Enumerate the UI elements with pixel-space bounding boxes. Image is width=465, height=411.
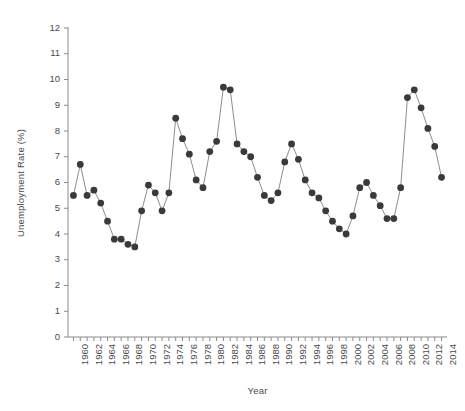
data-point-marker (138, 207, 145, 214)
x-axis-tick-label: 1982 (229, 344, 240, 378)
y-axis-tick-label: 4 (38, 228, 60, 239)
x-axis-tick-label: 1972 (161, 344, 172, 378)
x-axis-tick-label: 1964 (106, 344, 117, 378)
data-point-marker (350, 213, 357, 220)
x-axis-tick-label: 1966 (120, 344, 131, 378)
x-axis-tick-label: 2004 (379, 344, 390, 378)
data-point-marker (193, 177, 200, 184)
data-point-marker (329, 218, 336, 225)
data-point-marker (186, 151, 193, 158)
unemployment-rate-line-chart: Unemployment Rate (%) Year 0123456789101… (0, 0, 465, 411)
y-axis-title: Unemployment Rate (%) (15, 128, 26, 236)
x-axis-tick-label: 1970 (147, 344, 158, 378)
data-point-marker (411, 86, 418, 93)
x-axis-tick-label: 2006 (393, 344, 404, 378)
data-point-marker (336, 225, 343, 232)
data-point-marker (431, 143, 438, 150)
x-axis-title: Year (248, 385, 268, 396)
data-point-marker (384, 215, 391, 222)
x-axis-tick-label: 2000 (352, 344, 363, 378)
y-axis-tick-label: 10 (38, 73, 60, 84)
data-point-marker (234, 140, 241, 147)
data-point-marker (131, 243, 138, 250)
x-axis-tick-label: 2014 (447, 344, 458, 378)
data-point-marker (77, 161, 84, 168)
x-axis-tick-label: 1978 (202, 344, 213, 378)
data-point-marker (288, 140, 295, 147)
x-axis-tick-label: 2008 (406, 344, 417, 378)
data-point-marker (397, 184, 404, 191)
data-point-marker (390, 215, 397, 222)
x-axis-tick-label: 1988 (270, 344, 281, 378)
data-point-marker (159, 207, 166, 214)
y-axis-tick-label: 9 (38, 99, 60, 110)
x-axis-tick-label: 1974 (174, 344, 185, 378)
x-axis-tick-label: 1990 (283, 344, 294, 378)
data-point-marker (247, 153, 254, 160)
data-point-marker (343, 231, 350, 238)
y-axis-tick-label: 12 (38, 22, 60, 33)
data-point-marker (438, 174, 445, 181)
data-point-marker (104, 218, 111, 225)
data-point-marker (91, 187, 98, 194)
data-point-marker (213, 138, 220, 145)
data-point-marker (268, 197, 275, 204)
data-point-marker (172, 115, 179, 122)
y-axis-tick-label: 3 (38, 253, 60, 264)
x-axis-tick-label: 1994 (311, 344, 322, 378)
x-axis-tick-label: 1968 (133, 344, 144, 378)
data-point-marker (240, 148, 247, 155)
data-point-marker (309, 189, 316, 196)
data-point-marker (404, 94, 411, 101)
data-point-marker (254, 174, 261, 181)
data-point-marker (179, 135, 186, 142)
data-point-marker (275, 189, 282, 196)
x-axis-tick-label: 1960 (79, 344, 90, 378)
data-point-marker (111, 236, 118, 243)
data-point-marker (227, 86, 234, 93)
data-point-marker (356, 184, 363, 191)
x-axis-tick-label: 1984 (243, 344, 254, 378)
data-point-marker (315, 195, 322, 202)
data-point-marker (145, 182, 152, 189)
x-axis-tick-label: 2010 (420, 344, 431, 378)
y-axis-tick-label: 6 (38, 176, 60, 187)
data-point-marker (322, 207, 329, 214)
data-point-marker (84, 192, 91, 199)
y-axis-tick-label: 11 (38, 47, 60, 58)
data-point-marker (200, 184, 207, 191)
data-point-marker (377, 202, 384, 209)
data-point-marker (118, 236, 125, 243)
data-point-marker (206, 148, 213, 155)
x-axis-tick-label: 2012 (433, 344, 444, 378)
x-axis-tick-label: 1962 (93, 344, 104, 378)
data-point-marker (425, 125, 432, 132)
data-point-marker (165, 189, 172, 196)
y-axis-tick-label: 0 (38, 331, 60, 342)
data-point-marker (220, 84, 227, 91)
data-point-marker (70, 192, 77, 199)
x-axis-tick-label: 1980 (215, 344, 226, 378)
data-point-marker (152, 189, 159, 196)
data-point-marker (302, 177, 309, 184)
data-point-marker (370, 192, 377, 199)
x-axis-tick-label: 1992 (297, 344, 308, 378)
y-axis-tick-label: 5 (38, 202, 60, 213)
data-point-marker (363, 179, 370, 186)
x-axis-tick-label: 1976 (188, 344, 199, 378)
data-point-marker (97, 200, 104, 207)
data-series-line (73, 87, 441, 247)
y-axis-tick-label: 8 (38, 125, 60, 136)
y-axis-tick-label: 7 (38, 150, 60, 161)
x-axis-tick-label: 1986 (256, 344, 267, 378)
data-point-marker (418, 104, 425, 111)
data-point-marker (261, 192, 268, 199)
x-axis-tick-label: 2002 (365, 344, 376, 378)
data-point-marker (281, 159, 288, 166)
x-axis-tick-label: 1996 (324, 344, 335, 378)
y-axis-tick-label: 2 (38, 279, 60, 290)
data-point-marker (295, 156, 302, 163)
data-point-marker (125, 241, 132, 248)
y-axis-tick-label: 1 (38, 305, 60, 316)
x-axis-tick-label: 1998 (338, 344, 349, 378)
